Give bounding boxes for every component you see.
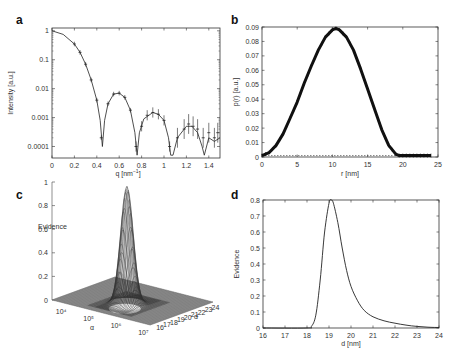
y-tick-label: 0.0001 (28, 143, 50, 150)
x-tick-label: 0 (50, 162, 54, 169)
panel-c-xlabel: α (90, 324, 94, 331)
y-tick-label: 0.05 (245, 81, 259, 88)
panel-b-plot (262, 26, 431, 157)
panel-b-ylabel: p(r) [a.u.] (232, 78, 240, 106)
y-tick-label: 0.8 (250, 197, 260, 204)
x-tick-label: 23 (413, 332, 421, 339)
panel-a-letter: a (16, 13, 23, 27)
z-tick-label: 0.6 (38, 226, 48, 233)
y-tick-label: 0.7 (250, 213, 260, 220)
y-tick-label: 0.09 (245, 24, 259, 31)
panel-d-frame (263, 200, 439, 328)
z-tick-label: 0.2 (38, 273, 48, 280)
panel-d-xlabel: d [nm] (341, 340, 361, 348)
y-tick-label: 0.07 (245, 52, 259, 59)
d-tick-label: 24 (212, 304, 220, 311)
panel-d-ticks: 16171819202122232400.10.20.30.40.50.60.7… (250, 197, 443, 340)
y-tick-label: 0.03 (245, 110, 259, 117)
y-tick-label: 0.4 (250, 261, 260, 268)
y-tick-label: 0.5 (250, 245, 260, 252)
panel-a-ylabel: Intensity [a.u.] (7, 71, 15, 115)
y-tick-label: 0.02 (245, 125, 259, 132)
x-tick-label: 5 (295, 161, 299, 168)
evidence-curve (263, 200, 439, 329)
panel-a-plot (52, 31, 220, 155)
y-tick-label: 0 (255, 154, 259, 161)
x-tick-label: 21 (369, 332, 377, 339)
y-tick-label: 0.1 (39, 56, 49, 63)
y-tick-label: 0.2 (250, 293, 260, 300)
panel-c-letter: c (16, 188, 23, 202)
x-tick-label: 19 (325, 332, 333, 339)
y-tick-label: 0.01 (245, 139, 259, 146)
alpha-tick-label: 10⁷ (138, 329, 149, 336)
y-tick-label: 0.001 (31, 114, 49, 121)
x-tick-label: 1 (162, 162, 166, 169)
y-tick-label: 0.08 (245, 38, 259, 45)
x-tick-label: 16 (259, 332, 267, 339)
y-tick-label: 0.6 (250, 229, 260, 236)
z-tick-label: 1 (44, 179, 48, 186)
y-tick-label: 1 (45, 27, 49, 34)
x-tick-label: 18 (303, 332, 311, 339)
panel-b-chart: 051015202500.010.020.030.040.050.060.070… (232, 24, 442, 179)
x-tick-label: 20 (399, 161, 407, 168)
panel-a-ticks: 00.20.40.60.811.21.410.10.010.0010.0001 (28, 27, 220, 169)
fit-curve (52, 31, 220, 155)
z-tick-label: 0.4 (38, 249, 48, 256)
alpha-tick-label: 10⁴ (56, 308, 67, 315)
y-tick-label: 0.01 (35, 85, 49, 92)
panel-a-chart: 00.20.40.60.811.21.410.10.010.0010.0001 … (7, 27, 220, 178)
y-tick-label: 0 (256, 325, 260, 332)
y-tick-label: 0.06 (245, 67, 259, 74)
x-tick-label: 0.2 (70, 162, 80, 169)
x-tick-label: 17 (281, 332, 289, 339)
z-tick-label: 0 (44, 297, 48, 304)
x-tick-label: 0.6 (114, 162, 124, 169)
x-tick-label: 10 (329, 161, 337, 168)
panel-c-ylabel: d (194, 313, 198, 320)
panel-d-ylabel: Evidence (233, 249, 240, 278)
panel-d-letter: d (231, 188, 238, 202)
panel-a-xlabel: q [nm−1] (115, 168, 140, 178)
panel-c-chart: Evidence 00.20.40.60.8110⁴10⁵10⁶10⁷16171… (38, 179, 219, 337)
y-tick-label: 0.04 (245, 96, 259, 103)
x-tick-label: 1.2 (182, 162, 192, 169)
x-tick-label: 20 (347, 332, 355, 339)
x-tick-label: 1.4 (204, 162, 214, 169)
y-tick-label: 0.1 (250, 309, 260, 316)
x-tick-label: 25 (434, 161, 442, 168)
figure: a b c d 00.20.40.60.811.21.410.10.010.00… (0, 0, 457, 364)
panel-d-plot (263, 200, 439, 329)
pr-curve (262, 28, 431, 155)
panel-c-surface: 00.20.40.60.8110⁴10⁵10⁶10⁷16171819202122… (38, 179, 219, 337)
x-tick-label: 22 (391, 332, 399, 339)
y-tick-label: 0.3 (250, 277, 260, 284)
x-tick-label: 15 (364, 161, 372, 168)
x-tick-label: 0.4 (92, 162, 102, 169)
x-tick-label: 0 (260, 161, 264, 168)
z-tick-label: 0.8 (38, 202, 48, 209)
alpha-tick-label: 10⁵ (83, 315, 94, 322)
alpha-tick-label: 10⁶ (111, 322, 122, 329)
x-tick-label: 24 (435, 332, 443, 339)
panel-d-chart: 16171819202122232400.10.20.30.40.50.60.7… (233, 197, 443, 349)
panel-b-letter: b (231, 13, 238, 27)
panel-b-xlabel: r [nm] (341, 170, 359, 178)
